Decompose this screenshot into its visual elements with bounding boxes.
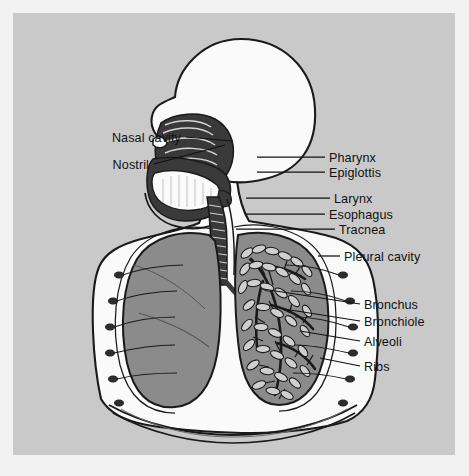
label-text: Epiglottis — [329, 166, 381, 180]
label-tracnea: Tracnea — [339, 224, 385, 237]
respiratory-system-figure: Nasal cavity Nostril Pharynx Epiglottis … — [0, 0, 469, 476]
label-text: Pharynx — [329, 151, 376, 165]
label-text: Nasal cavity — [112, 131, 181, 145]
diagram-panel: Nasal cavity Nostril Pharynx Epiglottis … — [13, 13, 455, 455]
label-text: Alveoli — [364, 335, 402, 349]
label-alveoli: Alveoli — [364, 336, 402, 349]
label-bronchiole: Bronchiole — [364, 316, 425, 329]
label-text: Nostril — [113, 158, 149, 172]
label-bronchus: Bronchus — [364, 299, 418, 312]
label-pharynx: Pharynx — [329, 152, 376, 165]
label-pleural-cavity: Pleural cavity — [344, 251, 420, 264]
label-text: Tracnea — [339, 223, 385, 237]
label-epiglottis: Epiglottis — [329, 167, 381, 180]
label-larynx: Larynx — [334, 193, 372, 206]
label-text: Bronchiole — [364, 315, 425, 329]
anatomy-illustration — [13, 13, 455, 455]
label-text: Esophagus — [329, 208, 393, 222]
label-text: Bronchus — [364, 298, 418, 312]
label-text: Larynx — [334, 192, 372, 206]
label-esophagus: Esophagus — [329, 209, 393, 222]
label-text: Pleural cavity — [344, 250, 420, 264]
label-nasal-cavity: Nasal cavity — [112, 132, 181, 145]
label-text: Ribs — [364, 360, 390, 374]
label-ribs: Ribs — [364, 361, 390, 374]
label-nostril: Nostril — [113, 159, 149, 172]
